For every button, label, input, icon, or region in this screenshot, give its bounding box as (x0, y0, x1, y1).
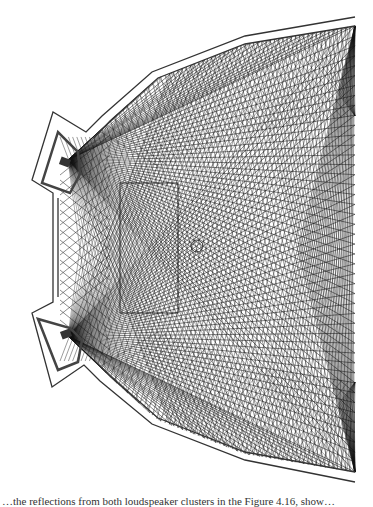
ray-paths (60, 26, 355, 472)
ray-line (68, 336, 238, 451)
figure-caption: …the reflections from both loudspeaker c… (2, 495, 373, 507)
ray-line (60, 195, 110, 235)
ray-line (68, 137, 178, 428)
ray-line (106, 125, 216, 443)
ray-line (68, 333, 355, 336)
